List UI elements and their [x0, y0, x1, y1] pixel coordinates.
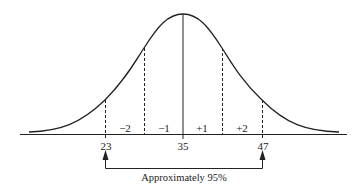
region-label-minus2: −2	[119, 122, 131, 134]
region-label-minus1: −1	[158, 122, 170, 134]
tick-label-35: 35	[178, 140, 189, 152]
range-bracket	[106, 157, 263, 169]
region-label-plus1: +1	[196, 122, 208, 134]
normal-curve-diagram	[0, 0, 360, 195]
region-label-plus2: +2	[236, 122, 248, 134]
caption-95-percent: Approximately 95%	[141, 172, 226, 183]
tick-label-47: 47	[258, 140, 269, 152]
tick-label-23: 23	[101, 140, 112, 152]
bell-curve	[29, 14, 339, 132]
